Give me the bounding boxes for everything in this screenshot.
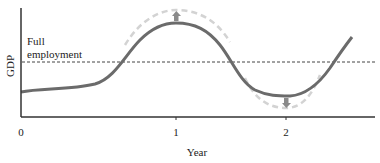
down-arrow-icon (282, 98, 291, 108)
full-employment-label-line2: employment (27, 48, 82, 60)
y-axis-label: GDP (4, 55, 16, 77)
x-tick-label-2: 2 (283, 126, 289, 138)
x-tick-label-0: 0 (18, 126, 24, 138)
up-arrow-icon (172, 11, 181, 21)
x-tick-label-1: 1 (173, 126, 179, 138)
gdp-business-cycle-chart: Full employment GDP 0 1 2 Year (0, 0, 380, 163)
full-employment-label-line1: Full (27, 35, 45, 47)
x-axis-label: Year (187, 146, 208, 158)
